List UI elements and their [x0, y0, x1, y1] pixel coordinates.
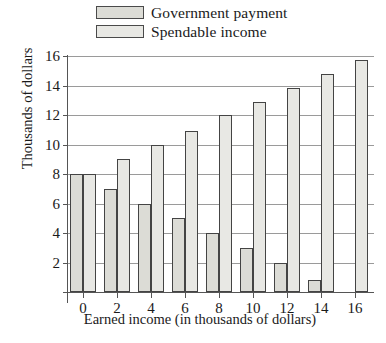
bar-spendable-income-4 — [151, 145, 164, 293]
x-tick-mark-12 — [287, 292, 288, 298]
y-tick-label-10: 10 — [45, 145, 60, 146]
x-tick-mark-10 — [253, 292, 254, 298]
y-tick-mark-14 — [63, 86, 68, 87]
x-tick-label-2: 2 — [102, 300, 132, 317]
y-tick-label-4: 4 — [53, 233, 61, 234]
bar-government-payment-0 — [70, 174, 83, 292]
bar-spendable-income-14 — [321, 74, 334, 292]
y-tick-mark-2 — [63, 263, 68, 264]
x-tick-label-8: 8 — [204, 300, 234, 317]
legend-item-spendable-income: Spendable income — [96, 22, 346, 41]
x-tick-label-16: 16 — [340, 300, 370, 317]
bar-government-payment-10 — [240, 248, 253, 292]
bar-government-payment-8 — [206, 233, 219, 292]
legend-swatch-icon-government-payment — [96, 6, 144, 19]
y-tick-label-6: 6 — [53, 204, 61, 205]
legend-label-spendable-income: Spendable income — [151, 24, 267, 40]
x-tick-label-4: 4 — [136, 300, 166, 317]
y-tick-label-12: 12 — [45, 115, 60, 116]
x-tick-mark-4 — [151, 292, 152, 298]
bar-spendable-income-0 — [83, 174, 96, 292]
bar-spendable-income-16 — [355, 60, 368, 292]
y-tick-mark-6 — [63, 204, 68, 205]
bar-government-payment-12 — [274, 263, 287, 293]
bar-spendable-income-10 — [253, 102, 266, 292]
bar-spendable-income-2 — [117, 159, 130, 292]
legend-swatch-icon-spendable-income — [96, 25, 144, 38]
bar-government-payment-4 — [138, 204, 151, 293]
x-axis-line — [68, 292, 374, 293]
y-axis-title: Thousands of dollars — [19, 24, 36, 194]
y-tick-mark-12 — [63, 115, 68, 116]
y-tick-label-16: 16 — [45, 56, 60, 57]
x-tick-label-12: 12 — [272, 300, 302, 317]
bar-government-payment-14 — [308, 280, 321, 292]
bar-spendable-income-6 — [185, 131, 198, 292]
y-axis-line — [67, 55, 68, 303]
y-tick-label-8: 8 — [53, 174, 61, 175]
bar-spendable-income-12 — [287, 88, 300, 292]
bar-government-payment-2 — [104, 189, 117, 292]
x-tick-mark-8 — [219, 292, 220, 298]
chart-legend: Government payment Spendable income — [96, 3, 346, 41]
x-tick-label-10: 10 — [238, 300, 268, 317]
y-tick-mark-16 — [63, 56, 68, 57]
y-tick-label-14: 14 — [45, 86, 60, 87]
legend-item-government-payment: Government payment — [96, 3, 346, 22]
bar-chart: Government payment Spendable income Thou… — [0, 0, 386, 343]
x-tick-label-14: 14 — [306, 300, 336, 317]
x-tick-mark-2 — [117, 292, 118, 298]
x-axis-origin-tick — [67, 292, 68, 298]
x-tick-mark-0 — [83, 292, 84, 298]
y-tick-mark-4 — [63, 233, 68, 234]
bar-government-payment-6 — [172, 218, 185, 292]
x-tick-mark-6 — [185, 292, 186, 298]
x-tick-mark-16 — [355, 292, 356, 298]
gridline-y-16 — [68, 56, 374, 57]
bar-spendable-income-8 — [219, 115, 232, 292]
y-tick-label-2: 2 — [53, 263, 61, 264]
x-tick-mark-14 — [321, 292, 322, 298]
y-tick-mark-10 — [63, 145, 68, 146]
x-tick-label-0: 0 — [68, 300, 98, 317]
legend-label-government-payment: Government payment — [151, 5, 288, 21]
x-tick-label-6: 6 — [170, 300, 200, 317]
y-tick-mark-8 — [63, 174, 68, 175]
plot-area: 2468101214160246810121416 — [68, 56, 374, 292]
